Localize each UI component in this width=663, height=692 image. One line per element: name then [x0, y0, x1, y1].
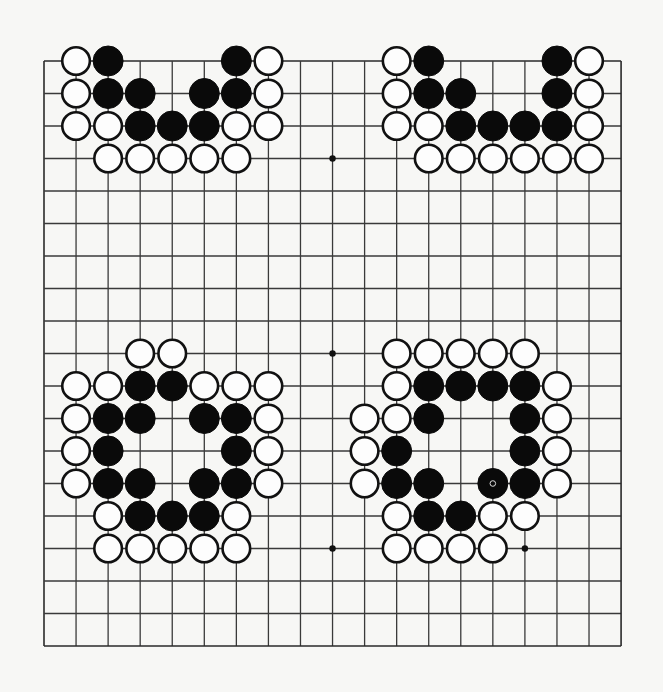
white-stone: [223, 502, 251, 530]
white-stone: [126, 535, 154, 563]
white-stone: [255, 437, 283, 465]
black-stone: [382, 436, 412, 466]
white-stone: [62, 372, 90, 400]
black-stone: [125, 501, 155, 531]
white-stone: [255, 80, 283, 108]
black-stone: [93, 436, 123, 466]
white-stone: [383, 80, 411, 108]
black-stone: [542, 111, 572, 141]
white-stone: [383, 405, 411, 433]
white-stone: [543, 405, 571, 433]
black-stone: [382, 469, 412, 499]
black-stone: [510, 469, 540, 499]
black-stone: [510, 111, 540, 141]
black-stone: [189, 501, 219, 531]
black-stone: [478, 371, 508, 401]
black-stone: [414, 46, 444, 76]
black-stone: [125, 404, 155, 434]
white-stone: [255, 47, 283, 75]
white-stone: [94, 502, 122, 530]
black-stone: [157, 371, 187, 401]
black-stone: [189, 404, 219, 434]
star-point-icon: [329, 155, 335, 161]
white-stone: [511, 502, 539, 530]
white-stone: [191, 535, 219, 563]
white-stone: [126, 145, 154, 173]
black-stone: [93, 469, 123, 499]
white-stone: [62, 80, 90, 108]
black-stone: [446, 371, 476, 401]
black-stone: [189, 79, 219, 109]
white-stone: [223, 535, 251, 563]
white-stone: [543, 470, 571, 498]
white-stone: [415, 145, 443, 173]
white-stone: [351, 470, 379, 498]
white-stone: [94, 112, 122, 140]
black-stone: [414, 371, 444, 401]
white-stone: [255, 405, 283, 433]
black-stone: [157, 111, 187, 141]
white-stone: [62, 112, 90, 140]
black-stone: [221, 46, 251, 76]
white-stone: [191, 372, 219, 400]
white-stone: [62, 437, 90, 465]
white-stone: [223, 145, 251, 173]
white-stone: [351, 405, 379, 433]
white-stone: [351, 437, 379, 465]
white-stone: [383, 340, 411, 368]
white-stone: [255, 112, 283, 140]
white-stone: [415, 535, 443, 563]
white-stone: [94, 535, 122, 563]
black-stone: [478, 469, 508, 499]
black-stone: [125, 371, 155, 401]
white-stone: [415, 340, 443, 368]
white-stone: [158, 535, 186, 563]
black-stone: [542, 79, 572, 109]
white-stone: [479, 502, 507, 530]
black-stone: [446, 79, 476, 109]
white-stone: [191, 145, 219, 173]
white-stone: [383, 372, 411, 400]
black-stone: [542, 46, 572, 76]
black-stone: [446, 501, 476, 531]
white-stone: [543, 145, 571, 173]
white-stone: [223, 112, 251, 140]
white-stone: [255, 372, 283, 400]
black-stone: [189, 111, 219, 141]
black-stone: [446, 111, 476, 141]
white-stone: [511, 340, 539, 368]
white-stone: [575, 80, 603, 108]
white-stone: [543, 372, 571, 400]
black-stone: [221, 79, 251, 109]
black-stone: [125, 79, 155, 109]
star-point-icon: [329, 350, 335, 356]
white-stone: [383, 112, 411, 140]
black-stone: [414, 469, 444, 499]
black-stone: [510, 404, 540, 434]
white-stone: [479, 535, 507, 563]
white-stone: [94, 145, 122, 173]
black-stone: [414, 79, 444, 109]
go-board-grid[interactable]: [0, 0, 663, 692]
black-stone: [93, 404, 123, 434]
star-point-icon: [522, 545, 528, 551]
black-stone: [125, 469, 155, 499]
black-stone: [93, 46, 123, 76]
black-stone: [414, 501, 444, 531]
white-stone: [62, 405, 90, 433]
go-board[interactable]: [0, 0, 663, 692]
white-stone: [575, 112, 603, 140]
black-stone: [414, 404, 444, 434]
black-stone: [510, 371, 540, 401]
white-stone: [415, 112, 443, 140]
white-stone: [511, 145, 539, 173]
white-stone: [94, 372, 122, 400]
black-stone: [478, 111, 508, 141]
white-stone: [447, 340, 475, 368]
white-stone: [158, 145, 186, 173]
white-stone: [447, 145, 475, 173]
black-stone: [510, 436, 540, 466]
white-stone: [383, 47, 411, 75]
black-stone: [157, 501, 187, 531]
white-stone: [62, 470, 90, 498]
